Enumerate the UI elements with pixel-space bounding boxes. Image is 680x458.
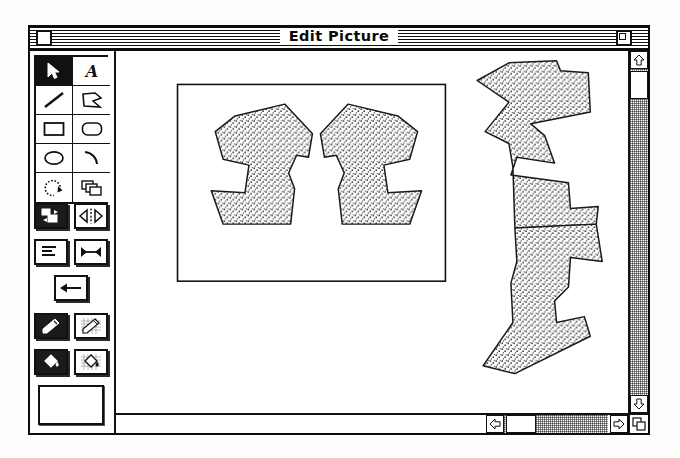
pen-color-button[interactable] [34,313,68,339]
text-align-button[interactable] [34,239,68,265]
paint-bucket-icon [40,353,62,371]
rotate-arrow-icon [41,178,67,198]
pencil-grid-icon [80,317,102,335]
shape-tool-group: A [34,55,108,204]
drawing-canvas[interactable] [116,51,648,433]
scroll-right-arrow[interactable] [610,415,628,433]
diagonal-line-icon [42,90,66,110]
polygon-icon [80,90,104,110]
layers-tool[interactable] [73,173,110,202]
picture-frame [178,84,446,281]
resize-grow-box[interactable] [628,413,648,433]
right-arrow-icon [613,418,625,430]
arrow-cursor-icon [46,62,62,80]
vertical-scrollbar[interactable] [628,51,648,413]
scroll-down-arrow[interactable] [630,395,648,413]
current-pattern-swatch[interactable] [38,385,104,425]
canvas-artwork [116,51,628,413]
oval-icon [42,149,66,167]
align-objects-icon [39,207,63,225]
align-objects-button[interactable] [34,203,68,229]
rectangle-icon [42,120,66,138]
right-mirror-polygon [320,104,421,224]
text-tool[interactable]: A [73,57,110,86]
scroll-left-arrow[interactable] [486,415,504,433]
vertical-scroll-thumb[interactable] [630,71,648,99]
rounded-rectangle-icon [80,120,104,138]
transform-row-3 [54,275,88,301]
window-title-text: Edit Picture [280,28,398,44]
rectangle-tool[interactable] [36,115,73,144]
fill-row [34,349,108,375]
scroll-up-arrow[interactable] [630,51,648,69]
fill-pattern-button[interactable] [74,349,108,375]
text-lines-icon [39,243,63,261]
flip-horizontal-button[interactable] [74,203,108,229]
window-title: Edit Picture [30,28,648,44]
window-body: A [30,51,648,433]
rounded-rectangle-tool[interactable] [73,115,110,144]
down-arrow-icon [633,398,645,410]
flip-horizontal-icon [78,207,104,225]
left-arrow-icon [489,418,501,430]
zoom-box[interactable] [616,30,632,46]
arrow-select-tool[interactable] [36,57,73,86]
up-arrow-icon [633,54,645,66]
horizontal-scrollbar[interactable] [116,413,628,433]
edit-picture-window: Edit Picture A [28,25,650,435]
window-titlebar[interactable]: Edit Picture [30,27,648,51]
horizontal-scroll-blank [116,415,486,433]
oval-tool[interactable] [36,144,73,173]
fill-color-button[interactable] [34,349,68,375]
horizontal-span-icon [78,243,104,261]
screen: Edit Picture A [0,0,680,458]
line-tool[interactable] [36,86,73,115]
arc-tool[interactable] [73,144,110,173]
horizontal-scroll-thumb[interactable] [506,415,536,433]
pen-row [34,313,108,339]
send-left-button[interactable] [54,275,88,301]
svg-text:A: A [83,62,97,81]
canvas-content [116,51,628,413]
script-a-icon: A [82,61,102,81]
grow-box-icon [632,417,646,431]
tall-zigzag-polygon-lower [483,224,602,374]
pen-pattern-button[interactable] [74,313,108,339]
transform-row-1 [34,203,108,229]
horizontal-scroll-track[interactable] [486,415,608,433]
arrow-left-icon [57,279,85,297]
tool-palette: A [30,51,116,433]
overlapping-shapes-icon [80,178,104,198]
pencil-icon [40,317,62,335]
transform-row-2 [34,239,108,265]
left-mirror-polygon [211,104,312,224]
paint-bucket-grid-icon [80,353,102,371]
rotate-tool[interactable] [36,173,73,202]
arc-icon [80,149,104,167]
polygon-tool[interactable] [73,86,110,115]
distribute-button[interactable] [74,239,108,265]
tall-zigzag-polygon-upper [477,61,598,228]
